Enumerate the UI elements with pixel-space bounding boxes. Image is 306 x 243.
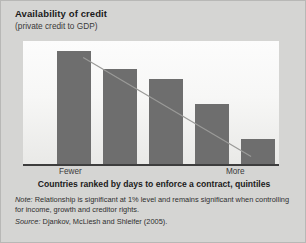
x-axis-line [23, 164, 279, 166]
x-axis-label-fewer: Fewer [59, 167, 82, 176]
note-lead: Note: [15, 195, 33, 204]
notes-block: Note: Relationship is significant at 1% … [15, 195, 295, 227]
x-axis-label-more: More [226, 167, 245, 176]
trend-line-segment [83, 58, 251, 157]
plot-area [23, 41, 279, 164]
source-lead: Source: [15, 217, 40, 226]
chart-header: Availability of credit (private credit t… [15, 8, 295, 32]
source-line: Source: Djankov, McLiesh and Shleifer (2… [15, 217, 295, 227]
note-line: Note: Relationship is significant at 1% … [15, 195, 295, 214]
chart-subtitle: (private credit to GDP) [15, 21, 295, 32]
chart-title: Availability of credit [15, 8, 295, 20]
x-axis-caption: Countries ranked by days to enforce a co… [1, 179, 306, 189]
source-text: Djankov, McLiesh and Shleifer (2005). [40, 217, 167, 226]
figure-panel: Availability of credit (private credit t… [0, 0, 306, 243]
trend-line [23, 41, 279, 164]
note-text: Relationship is significant at 1% level … [15, 195, 289, 214]
